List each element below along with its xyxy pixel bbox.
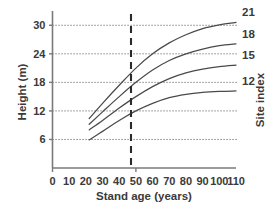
y-tick-label-6: 6 <box>39 133 45 145</box>
x-axis-tick-labels: 0102030405060708090100110 <box>49 175 244 187</box>
secondary-axis-title: Site index <box>254 72 266 127</box>
curve-label-12: 12 <box>242 75 255 87</box>
x-tick-label-90: 90 <box>197 175 209 187</box>
y-tick-label-18: 18 <box>33 76 45 88</box>
x-tick-label-50: 50 <box>130 175 142 187</box>
x-tick-label-70: 70 <box>163 175 175 187</box>
x-tick-label-0: 0 <box>49 175 55 187</box>
x-tick-label-60: 60 <box>146 175 158 187</box>
y-tick-label-30: 30 <box>33 19 45 31</box>
curve-label-15: 15 <box>242 49 255 61</box>
curve-label-21: 21 <box>242 6 255 18</box>
x-tick-label-40: 40 <box>113 175 125 187</box>
x-tick-label-80: 80 <box>180 175 192 187</box>
site-index-chart: 612182430 0102030405060708090100110 2118… <box>0 0 279 224</box>
y-tick-label-24: 24 <box>33 48 46 60</box>
x-tick-label-100: 100 <box>210 175 228 187</box>
y-axis-title: Height (m) <box>16 63 28 120</box>
x-tick-label-20: 20 <box>80 175 92 187</box>
curve-label-18: 18 <box>242 28 255 40</box>
chart-canvas: 612182430 0102030405060708090100110 2118… <box>0 0 279 224</box>
x-axis-title: Stand age (years) <box>96 190 192 202</box>
x-tick-label-110: 110 <box>227 175 245 187</box>
y-tick-label-12: 12 <box>33 105 45 117</box>
x-tick-label-30: 30 <box>96 175 108 187</box>
x-tick-label-10: 10 <box>63 175 75 187</box>
